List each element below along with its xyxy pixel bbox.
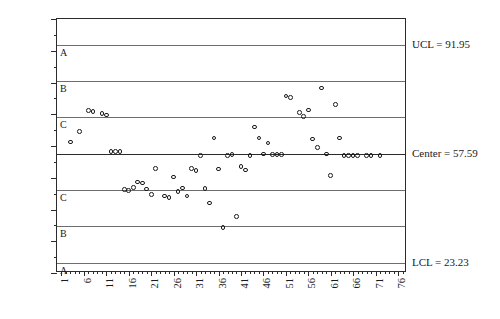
x-tick-major [61,271,62,276]
zone-label-a-0: A [60,48,67,58]
x-tick-minor [389,271,390,274]
x-tick-minor [115,271,116,274]
data-point [149,192,154,197]
x-tick-major [308,271,309,276]
y-tick-major [51,83,57,84]
x-tick-major [353,271,354,276]
data-point [131,185,136,190]
x-tick-minor [201,271,202,274]
x-tick-minor [322,271,323,274]
x-tick-minor [385,271,386,274]
x-tick-minor [245,271,246,274]
x-tick-minor [281,271,282,274]
x-tick-label: 71 [374,278,385,289]
x-tick-minor [183,271,184,274]
center-label: Center = 57.59 [412,148,478,159]
x-tick-label: 66 [352,278,363,289]
x-tick-minor [344,271,345,274]
x-tick-major [106,271,107,276]
data-point [248,153,253,158]
x-tick-label: 61 [329,278,340,289]
x-tick-minor [259,271,260,274]
x-tick-minor [142,271,143,274]
data-point [207,201,212,206]
x-tick-major [376,271,377,276]
x-tick-major [129,271,130,276]
x-tick-major [398,271,399,276]
x-tick-minor [358,271,359,274]
x-tick-major [151,271,152,276]
x-tick-minor [192,271,193,274]
x-tick-label: 26 [172,278,183,289]
x-tick-minor [169,271,170,274]
y-tick-minor [54,130,58,131]
x-tick-label: 51 [285,278,296,289]
data-point [167,195,172,200]
x-tick-minor [133,271,134,274]
data-point [104,113,109,118]
data-point [230,152,235,157]
y-tick-major [51,210,57,211]
x-tick-minor [250,271,251,274]
data-point [185,194,190,199]
data-point [68,140,73,145]
y-tick-minor [54,162,58,163]
data-point [306,108,311,113]
y-tick-major [51,51,57,52]
x-tick-minor [317,271,318,274]
data-point [216,167,221,172]
x-tick-minor [93,271,94,274]
data-point [266,141,271,146]
x-tick-major [286,271,287,276]
x-tick-minor [232,271,233,274]
x-tick-label: 1 [60,278,71,283]
x-tick-minor [371,271,372,274]
y-tick-minor [54,98,58,99]
x-tick-minor [178,271,179,274]
x-tick-minor [111,271,112,274]
data-point [176,189,181,194]
x-tick-minor [66,271,67,274]
x-tick-minor [97,271,98,274]
x-tick-minor [124,271,125,274]
x-tick-minor [290,271,291,274]
x-tick-minor [362,271,363,274]
x-tick-minor [75,271,76,274]
data-point [252,125,257,130]
data-point [270,152,275,157]
data-point [234,214,239,219]
x-tick-label: 76 [397,278,408,289]
x-tick-minor [120,271,121,274]
data-point [378,153,383,158]
y-tick-major [51,114,57,115]
x-tick-label: 16 [128,278,139,289]
data-point [144,187,149,192]
x-tick-major [263,271,264,276]
x-tick-major [241,271,242,276]
zone-boundary-line [57,190,405,191]
data-point [140,181,145,186]
x-tick-minor [88,271,89,274]
ucl-line [57,45,405,46]
data-point [203,186,208,191]
x-tick-minor [313,271,314,274]
x-tick-minor [268,271,269,274]
x-tick-minor [79,271,80,274]
x-tick-minor [214,271,215,274]
x-tick-label: 31 [195,278,206,289]
data-point [310,137,315,142]
data-point [337,136,342,141]
zone-label-b-1: B [60,84,67,94]
data-point [113,149,118,154]
x-tick-minor [304,271,305,274]
x-tick-label: 21 [150,278,161,289]
data-point [221,225,226,230]
x-tick-minor [326,271,327,274]
x-tick-major [196,271,197,276]
data-point [212,136,217,141]
zone-label-b-4: B [60,229,67,239]
plot-area: ABCCBA 2030405060708090100 1611162126313… [56,18,406,272]
x-tick-minor [160,271,161,274]
data-point [324,152,329,157]
y-tick-minor [54,225,58,226]
